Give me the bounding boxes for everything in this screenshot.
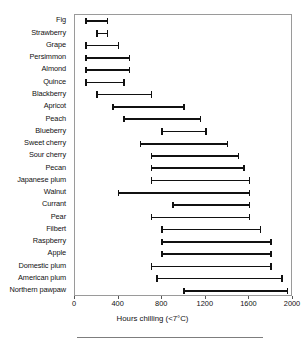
- range-cap-low-northern-pawpaw: [183, 288, 185, 294]
- range-bar-northern-pawpaw: [184, 290, 288, 292]
- category-label-quince: Quince: [43, 78, 66, 85]
- category-label-almond: Almond: [42, 65, 66, 72]
- range-cap-high-pecan: [243, 165, 245, 171]
- category-label-japanese-plum: Japanese plum: [17, 176, 66, 183]
- bars-container: [75, 15, 291, 295]
- range-bar-american-plum: [157, 278, 282, 280]
- range-bar-currant: [173, 204, 249, 206]
- range-cap-low-pear: [151, 214, 153, 220]
- range-cap-high-japanese-plum: [249, 177, 251, 183]
- range-bar-filbert: [162, 229, 260, 231]
- x-tick-label-400: 400: [111, 300, 123, 308]
- range-cap-high-raspberry: [270, 239, 272, 245]
- range-bar-pecan: [151, 167, 244, 169]
- x-tick-label-1200: 1200: [197, 300, 213, 308]
- range-cap-high-strawberry: [107, 30, 109, 36]
- range-cap-high-blueberry: [205, 128, 207, 134]
- x-tick-label-800: 800: [155, 300, 167, 308]
- range-bar-fig: [86, 20, 108, 22]
- range-cap-low-walnut: [118, 190, 120, 196]
- range-cap-low-sour-cherry: [151, 153, 153, 159]
- range-cap-high-american-plum: [281, 275, 283, 281]
- range-cap-high-persimmon: [129, 55, 131, 61]
- range-cap-high-almond: [129, 67, 131, 73]
- category-label-apricot: Apricot: [44, 102, 66, 109]
- range-cap-high-quince: [123, 79, 125, 85]
- range-cap-high-grape: [118, 42, 120, 48]
- category-axis-labels: FigStrawberryGrapePersimmonAlmondQuinceB…: [0, 14, 70, 296]
- range-cap-high-walnut: [249, 190, 251, 196]
- range-cap-low-fig: [85, 18, 87, 24]
- range-bar-quince: [86, 82, 124, 84]
- range-bar-sweet-cherry: [140, 143, 227, 145]
- category-label-apple: Apple: [48, 249, 66, 256]
- range-cap-low-peach: [123, 116, 125, 122]
- range-cap-low-currant: [172, 202, 174, 208]
- x-tick-label-1600: 1600: [240, 300, 256, 308]
- range-bar-japanese-plum: [151, 180, 249, 182]
- range-cap-low-blueberry: [161, 128, 163, 134]
- range-bar-blueberry: [162, 131, 206, 133]
- range-cap-high-currant: [249, 202, 251, 208]
- range-cap-low-strawberry: [96, 30, 98, 36]
- range-cap-low-grape: [85, 42, 87, 48]
- footer-divider: [77, 337, 263, 338]
- category-label-northern-pawpaw: Northern pawpaw: [10, 286, 66, 293]
- range-cap-low-filbert: [161, 226, 163, 232]
- range-cap-high-sour-cherry: [238, 153, 240, 159]
- range-cap-low-american-plum: [156, 275, 158, 281]
- category-label-persimmon: Persimmon: [30, 53, 66, 60]
- plot-area: [74, 14, 292, 296]
- range-cap-low-raspberry: [161, 239, 163, 245]
- category-label-filbert: Filbert: [46, 225, 66, 232]
- category-label-american-plum: American plum: [18, 274, 66, 281]
- category-label-domestic-plum: Domestic plum: [18, 262, 66, 269]
- category-label-grape: Grape: [46, 41, 66, 48]
- category-label-peach: Peach: [46, 115, 66, 122]
- range-bar-blackberry: [97, 94, 152, 96]
- range-bar-grape: [86, 45, 119, 47]
- range-bar-peach: [124, 118, 200, 120]
- range-cap-low-persimmon: [85, 55, 87, 61]
- category-label-pecan: Pecan: [46, 164, 66, 171]
- range-cap-low-domestic-plum: [151, 263, 153, 269]
- category-label-fig: Fig: [56, 16, 66, 23]
- range-cap-low-pecan: [151, 165, 153, 171]
- x-axis-title: Hours chilling (<7°C): [0, 314, 305, 323]
- range-cap-high-filbert: [260, 226, 262, 232]
- range-cap-high-pear: [249, 214, 251, 220]
- category-label-sour-cherry: Sour cherry: [29, 151, 66, 158]
- range-cap-low-apricot: [112, 104, 114, 110]
- range-cap-high-peach: [200, 116, 202, 122]
- range-bar-apple: [162, 253, 271, 255]
- category-label-sweet-cherry: Sweet cherry: [24, 139, 66, 146]
- range-bar-sour-cherry: [151, 155, 238, 157]
- range-cap-low-apple: [161, 251, 163, 257]
- range-cap-low-japanese-plum: [151, 177, 153, 183]
- category-label-blackberry: Blackberry: [32, 90, 66, 97]
- range-cap-low-almond: [85, 67, 87, 73]
- range-cap-high-blackberry: [151, 91, 153, 97]
- category-label-pear: Pear: [51, 213, 66, 220]
- range-bar-persimmon: [86, 57, 130, 59]
- range-cap-high-apple: [270, 251, 272, 257]
- category-label-raspberry: Raspberry: [33, 237, 66, 244]
- range-cap-high-sweet-cherry: [227, 141, 229, 147]
- range-bar-walnut: [119, 192, 250, 194]
- range-cap-low-sweet-cherry: [140, 141, 142, 147]
- category-label-blueberry: Blueberry: [35, 127, 66, 134]
- range-cap-high-fig: [107, 18, 109, 24]
- range-cap-high-apricot: [183, 104, 185, 110]
- range-bar-domestic-plum: [151, 266, 271, 268]
- range-cap-low-blackberry: [96, 91, 98, 97]
- category-label-walnut: Walnut: [44, 188, 66, 195]
- x-tick-label-2000: 2000: [284, 300, 300, 308]
- chilling-hours-range-chart: FigStrawberryGrapePersimmonAlmondQuinceB…: [0, 0, 305, 348]
- range-bar-almond: [86, 69, 130, 71]
- category-label-strawberry: Strawberry: [31, 29, 66, 36]
- range-cap-high-northern-pawpaw: [287, 288, 289, 294]
- range-bar-raspberry: [162, 241, 271, 243]
- x-tick-label-0: 0: [72, 300, 76, 308]
- range-cap-high-domestic-plum: [270, 263, 272, 269]
- category-label-currant: Currant: [42, 200, 66, 207]
